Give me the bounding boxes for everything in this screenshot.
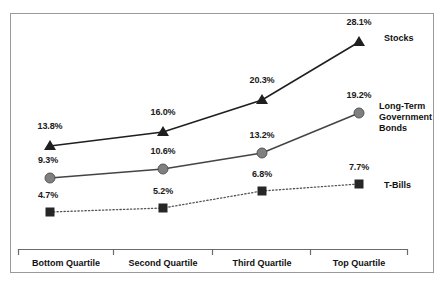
legend-label-bonds-line3: Bonds [379, 123, 407, 134]
data-label-stocks-top-quartile: 28.1% [346, 17, 371, 27]
data-label-stocks-second-quartile: 16.0% [150, 107, 175, 117]
marker-tbills-bottom-quartile [46, 208, 55, 217]
data-label-tbills-top-quartile: 7.7% [349, 162, 369, 172]
marker-stocks-third-quartile [256, 94, 268, 104]
data-label-tbills-bottom-quartile: 4.7% [38, 190, 58, 200]
data-label-bonds-third-quartile: 13.2% [249, 130, 274, 140]
data-label-tbills-second-quartile: 5.2% [153, 186, 173, 196]
legend-label-tbills: T-Bills [384, 180, 411, 191]
x-axis-label-third-quartile: Third Quartile [232, 258, 291, 268]
data-label-stocks-bottom-quartile: 13.8% [37, 121, 62, 131]
marker-bonds-second-quartile [158, 164, 168, 174]
marker-stocks-top-quartile [353, 36, 365, 46]
data-label-bonds-top-quartile: 19.2% [346, 90, 371, 100]
data-label-stocks-third-quartile: 20.3% [249, 75, 274, 85]
legend-label-bonds-line1: Long-Term [379, 101, 425, 112]
marker-tbills-second-quartile [159, 204, 168, 213]
marker-bonds-top-quartile [354, 108, 364, 118]
data-label-bonds-bottom-quartile: 9.3% [38, 155, 58, 165]
x-axis-label-top-quartile: Top Quartile [333, 258, 385, 268]
chart-page: 13.8% 16.0% 20.3% 28.1% 9.3% 10.6% 13.2%… [0, 0, 445, 281]
marker-bonds-bottom-quartile [45, 173, 55, 183]
data-label-tbills-third-quartile: 6.8% [252, 169, 272, 179]
chart-plot-area [0, 0, 445, 281]
marker-bonds-third-quartile [257, 148, 267, 158]
x-axis-label-bottom-quartile: Bottom Quartile [32, 258, 100, 268]
marker-tbills-top-quartile [355, 180, 364, 189]
x-axis-label-second-quartile: Second Quartile [128, 258, 197, 268]
data-label-bonds-second-quartile: 10.6% [150, 146, 175, 156]
series-line-tbills [50, 184, 359, 212]
series-line-bonds [50, 113, 359, 178]
legend-label-stocks: Stocks [384, 33, 414, 44]
legend-label-bonds-line2: Government [379, 112, 432, 123]
series-line-stocks [50, 42, 359, 146]
marker-tbills-third-quartile [258, 187, 267, 196]
